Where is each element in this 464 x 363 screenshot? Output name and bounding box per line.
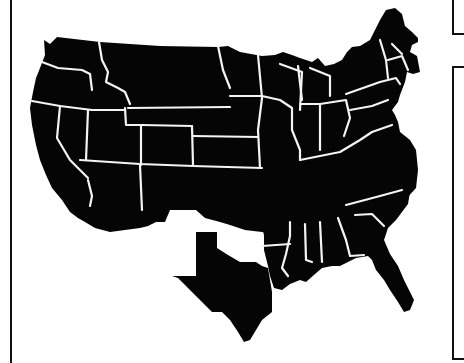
texas xyxy=(172,232,272,342)
